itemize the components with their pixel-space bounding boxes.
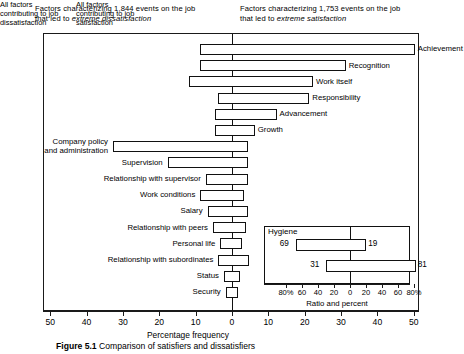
x-tick <box>196 311 197 316</box>
bar-relationship-with-peers <box>213 222 246 233</box>
bar-company-policy-and-administration <box>113 141 247 152</box>
figure-caption-label: Figure 5.1 <box>56 341 97 351</box>
caption-satisfaction-line1: Factors characterizing 1,753 events on t… <box>240 4 400 13</box>
caption-satisfaction-line2-prefix: that led to <box>240 14 277 23</box>
inset-value-left: 31 <box>310 259 319 271</box>
caption-satisfaction-emphasis: extreme satisfaction <box>277 14 347 23</box>
x-axis-title: Percentage frequency <box>0 330 464 340</box>
x-tick <box>232 311 233 316</box>
inset-value-right: 19 <box>368 238 377 250</box>
x-tick <box>377 311 378 316</box>
bar-advancement <box>215 109 277 120</box>
x-tick <box>268 311 269 316</box>
x-tick <box>414 311 415 316</box>
bar-growth <box>215 125 255 136</box>
inset-header-dissatisfaction: All factors contributing to job dissatis… <box>0 0 72 27</box>
x-axis-line <box>43 311 419 312</box>
x-tick <box>341 311 342 316</box>
x-tick <box>123 311 124 316</box>
inset-bar-hygiene <box>296 239 366 251</box>
bar-achievement <box>200 44 414 55</box>
bar-label-security: Security <box>193 287 221 296</box>
bar-label-status: Status <box>197 271 219 280</box>
caption-satisfaction: Factors characterizing 1,753 events on t… <box>240 4 450 23</box>
x-tick-label: 30 <box>329 317 353 327</box>
bar-label-personal-life: Personal life <box>172 239 215 248</box>
x-tick-label: 50 <box>402 317 426 327</box>
bar-label-achievement: Achievement <box>418 44 463 53</box>
bar-responsibility <box>218 93 309 104</box>
inset-series-label: Hygiene <box>268 227 297 236</box>
bar-label-work-conditions: Work conditions <box>140 190 195 199</box>
bar-label-advancement: Advancement <box>280 109 328 118</box>
x-axis-title-text: Percentage frequency <box>147 330 229 340</box>
inset-zero-axis-line <box>350 227 351 285</box>
bar-salary <box>208 206 248 217</box>
x-tick-label: 20 <box>293 317 317 327</box>
figure-caption-text: Comparison of satisfiers and dissatisfie… <box>99 341 255 351</box>
bar-label-supervision: Supervision <box>122 158 163 167</box>
bar-label-relationship-with-peers: Relationship with peers <box>127 223 208 232</box>
x-tick-label: 10 <box>256 317 280 327</box>
inset-value-right: 81 <box>418 259 427 271</box>
x-tick-label: 20 <box>147 317 171 327</box>
bar-label-salary: Salary <box>180 206 202 215</box>
bar-work-conditions <box>200 190 244 201</box>
bar-label-work-itself: Work itself <box>316 77 352 86</box>
x-tick-label: 40 <box>365 317 389 327</box>
x-tick <box>87 311 88 316</box>
bar-relationship-with-supervisor <box>206 174 248 185</box>
x-tick <box>50 311 51 316</box>
bar-status <box>224 271 240 282</box>
inset-x-axis-title: Ratio and percent <box>264 299 410 308</box>
x-tick <box>159 311 160 316</box>
bar-security <box>226 287 239 298</box>
bar-work-itself <box>189 76 313 87</box>
figure-caption: Figure 5.1 Comparison of satisfiers and … <box>56 341 456 352</box>
bar-label-recognition: Recognition <box>349 61 390 70</box>
bar-personal-life <box>220 238 242 249</box>
bar-relationship-with-subordinates <box>218 255 249 266</box>
bar-label-growth: Growth <box>258 125 283 134</box>
bar-label-relationship-with-supervisor: Relationship with supervisor <box>104 174 201 183</box>
figure-root: Factors characterizing 1,844 events on t… <box>0 0 464 354</box>
inset-x-tick-label: 80% <box>403 288 425 297</box>
bar-label-responsibility: Responsibility <box>312 93 360 102</box>
bar-supervision <box>168 157 248 168</box>
x-tick <box>305 311 306 316</box>
inset-bar-motivators <box>326 260 416 272</box>
x-tick-label: 50 <box>38 317 62 327</box>
x-tick-label: 0 <box>220 317 244 327</box>
x-tick-label: 40 <box>75 317 99 327</box>
bar-label-company-policy-and-administration: Company policyand administration <box>16 137 108 155</box>
x-tick-label: 30 <box>111 317 135 327</box>
inset-header-satisfaction: All factors contributing to job satisfac… <box>76 0 148 27</box>
bar-label-relationship-with-subordinates: Relationship with subordinates <box>108 255 214 264</box>
inset-value-left: 69 <box>280 238 289 250</box>
x-tick-label: 10 <box>184 317 208 327</box>
bar-recognition <box>200 60 345 71</box>
